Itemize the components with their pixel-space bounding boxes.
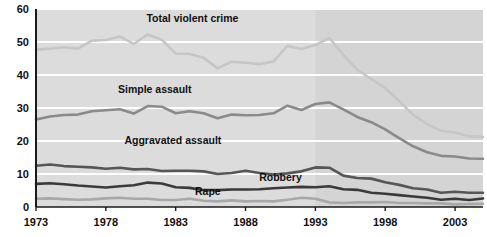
- violent-crime-line-chart: 0102030405060 19731978198319881993199820…: [0, 0, 487, 237]
- x-axis-tick-label: 1973: [24, 216, 48, 228]
- y-axis-tick-label: 0: [23, 201, 29, 213]
- x-axis-tick-label: 1993: [303, 216, 327, 228]
- x-axis-tick-label: 1988: [233, 216, 257, 228]
- y-axis-tick-label: 20: [17, 135, 29, 147]
- series-label-rape: Rape: [195, 185, 221, 197]
- x-axis-tick-label: 1998: [373, 216, 397, 228]
- series-label-total-violent-crime: Total violent crime: [146, 12, 238, 24]
- series-label-simple-assault: Simple assault: [118, 83, 192, 95]
- y-axis-tick-label: 40: [17, 69, 29, 81]
- series-label-aggravated-assault: Aggravated assault: [124, 134, 221, 146]
- series-label-robbery: Robbery: [259, 171, 302, 183]
- x-axis-tick-label: 1978: [94, 216, 118, 228]
- y-axis-tick-label: 30: [17, 102, 29, 114]
- x-axis-labels-group: 1973197819831988199319982003: [24, 216, 468, 228]
- y-axis-labels-group: 0102030405060: [17, 3, 29, 213]
- x-axis-tick-label: 2003: [443, 216, 467, 228]
- x-axis-tick-label: 1983: [163, 216, 187, 228]
- y-axis-tick-label: 60: [17, 3, 29, 15]
- y-axis-tick-label: 10: [17, 168, 29, 180]
- y-axis-tick-label: 50: [17, 36, 29, 48]
- chart-canvas: 0102030405060 19731978198319881993199820…: [0, 0, 487, 237]
